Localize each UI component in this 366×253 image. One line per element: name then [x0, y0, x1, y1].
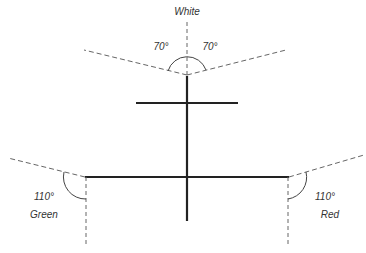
green-boundary-dashed — [8, 158, 85, 177]
top-left-angle-label: 70° — [153, 41, 168, 52]
red-boundary-dashed — [289, 155, 364, 177]
aircraft-outline — [85, 76, 289, 221]
top-right-angle-label: 70° — [202, 41, 217, 52]
left-angle-label: 110° — [34, 191, 54, 202]
white-light-sector — [84, 22, 286, 75]
navigation-lights-diagram: White 70° 70° 110° Green 110° Red — [0, 0, 366, 253]
white-left-boundary-dashed — [84, 50, 187, 75]
green-label: Green — [30, 209, 58, 220]
right-angle-label: 110° — [315, 191, 335, 202]
white-label: White — [174, 6, 200, 17]
red-label: Red — [321, 209, 340, 220]
